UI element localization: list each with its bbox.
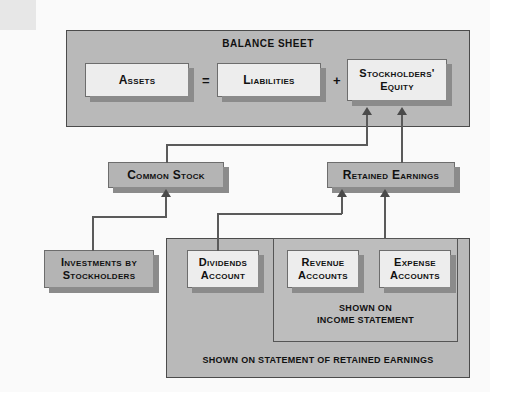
- common-stock-label: Common Stock: [127, 168, 205, 182]
- liabilities-label: Liabilities: [243, 73, 295, 87]
- dividends-label-line1: Dividends: [199, 256, 247, 269]
- liabilities-box[interactable]: Liabilities: [217, 63, 321, 97]
- income-statement-caption-line2: INCOME STATEMENT: [273, 314, 458, 326]
- connector-retainedearnings-to-equity: [401, 115, 403, 163]
- investments-label-line1: Investments by: [61, 256, 137, 269]
- stockholders-equity-label-line1: Stockholders': [359, 67, 435, 80]
- connector-commonstock-right: [166, 144, 367, 146]
- arrow-into-retained-earnings-right: [380, 189, 390, 197]
- arrow-into-common-stock: [161, 189, 171, 197]
- connector-dividends-to-retained: [341, 197, 343, 214]
- income-statement-caption-line1: SHOWN ON: [273, 302, 458, 314]
- retained-earnings-statement-caption: SHOWN ON STATEMENT OF RETAINED EARNINGS: [166, 354, 470, 366]
- stockholders-equity-label-line2: Equity: [380, 80, 414, 93]
- income-statement-caption: SHOWN ON INCOME STATEMENT: [273, 302, 458, 326]
- dividends-label-line2: Account: [201, 269, 245, 282]
- expense-accounts-box[interactable]: Expense Accounts: [379, 250, 451, 288]
- connector-dividends-up: [217, 213, 219, 251]
- revenue-label-line1: Revenue: [302, 256, 345, 269]
- assets-label: Assets: [119, 73, 156, 87]
- plus-operator: +: [333, 73, 341, 88]
- common-stock-box[interactable]: Common Stock: [108, 162, 224, 188]
- equals-operator: =: [202, 73, 210, 88]
- connector-commonstock-up: [166, 144, 168, 163]
- connector-investments-up: [92, 216, 94, 251]
- connector-incomestatement-to-retained: [384, 197, 386, 239]
- connector-investments-right: [92, 216, 167, 218]
- revenue-accounts-box[interactable]: Revenue Accounts: [287, 250, 359, 288]
- connector-dividends-right: [217, 213, 342, 215]
- revenue-label-line2: Accounts: [298, 269, 348, 282]
- stockholders-equity-box[interactable]: Stockholders' Equity: [347, 59, 447, 101]
- arrow-into-retained-earnings-left: [337, 189, 347, 197]
- assets-box[interactable]: Assets: [85, 63, 189, 97]
- investments-label-line2: Stockholders: [63, 269, 136, 282]
- arrow-into-equity-left: [362, 107, 372, 115]
- retained-earnings-label: Retained Earnings: [343, 168, 440, 182]
- expense-label-line1: Expense: [394, 256, 436, 269]
- dividends-account-box[interactable]: Dividends Account: [187, 250, 259, 288]
- corner-gray-patch: [0, 0, 36, 30]
- retained-earnings-box[interactable]: Retained Earnings: [327, 162, 455, 188]
- connector-investments-to-commonstock: [165, 197, 167, 217]
- expense-label-line2: Accounts: [390, 269, 440, 282]
- arrow-into-equity-right: [397, 107, 407, 115]
- investments-by-stockholders-box[interactable]: Investments by Stockholders: [44, 250, 154, 288]
- diagram-canvas: BALANCE SHEET Assets = Liabilities + Sto…: [0, 0, 512, 413]
- connector-commonstock-to-equity: [366, 115, 368, 146]
- balance-sheet-title: BALANCE SHEET: [66, 38, 470, 49]
